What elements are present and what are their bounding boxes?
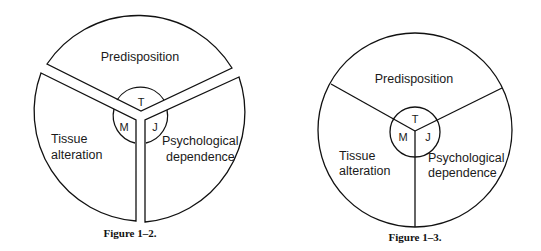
center-label-j-1: J [152,121,158,133]
figure-1-2 [34,15,245,222]
label-alteration-1: alteration [51,148,102,162]
label-psychological-1: Psychological [162,134,238,148]
center-label-t-1: T [138,96,145,108]
divider-right [415,88,502,131]
figure-1-3 [318,33,512,227]
label-dependence-1: dependence [166,150,235,164]
label-psychological-2: Psychological [428,151,504,165]
center-label-t-2: T [412,113,419,125]
label-predisposition-1: Predisposition [101,50,180,64]
caption-figure-1-2: Figure 1–2. [104,227,157,239]
center-label-j-2: J [425,131,431,143]
center-label-m-2: M [398,131,407,143]
center-label-m-1: M [119,121,128,133]
label-dependence-2: dependence [428,166,497,180]
label-tissue-1: Tissue [51,132,87,146]
diagram-canvas: Predisposition Tissue alteration Psychol… [0,0,541,251]
label-alteration-2: alteration [339,164,390,178]
label-predisposition-2: Predisposition [375,72,454,86]
label-tissue-2: Tissue [339,149,375,163]
divider-left [331,84,415,131]
caption-figure-1-3: Figure 1–3. [389,231,442,243]
